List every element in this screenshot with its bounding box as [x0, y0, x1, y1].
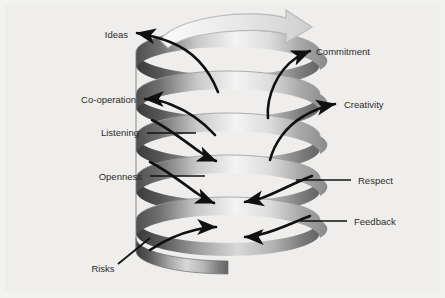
labels-group: Ideas Commitment Co-operation Creativity…: [81, 29, 396, 274]
spiral-diagram-svg: Ideas Commitment Co-operation Creativity…: [0, 0, 445, 298]
label-creativity: Creativity: [344, 99, 384, 110]
figure-canvas: Ideas Commitment Co-operation Creativity…: [0, 0, 445, 298]
label-respect: Respect: [358, 175, 393, 186]
spiral-turn-5-far: [136, 220, 320, 256]
label-cooperation: Co-operation: [81, 94, 136, 105]
spiral-ribbon: [136, 29, 327, 274]
label-listening: Listening: [101, 127, 139, 138]
spiral-turn-5: [136, 197, 327, 256]
label-ideas: Ideas: [105, 29, 128, 40]
label-openness: Openness: [99, 171, 143, 182]
arrow-feedback: [245, 216, 310, 237]
label-risks: Risks: [91, 263, 114, 274]
label-commitment: Commitment: [316, 46, 370, 57]
label-feedback: Feedback: [354, 216, 396, 227]
